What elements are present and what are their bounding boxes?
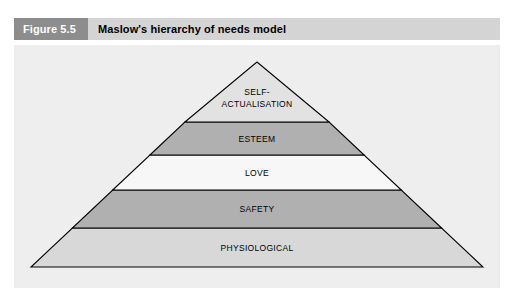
pyramid-label-esteem: ESTEEM (239, 134, 276, 144)
pyramid-label-safety: SAFETY (240, 204, 275, 214)
pyramid-label-self-actualisation-line2: ACTUALISATION (222, 99, 293, 109)
figure-number-badge: Figure 5.5 (14, 18, 88, 40)
pyramid-label-physiological: PHYSIOLOGICAL (221, 243, 294, 253)
pyramid-label-love: LOVE (245, 168, 269, 178)
pyramid-label-self-actualisation-line1: SELF- (244, 87, 270, 97)
figure-title: Maslow's hierarchy of needs model (88, 18, 500, 40)
figure-panel: SELF- ACTUALISATION ESTEEM LOVE SAFETY P… (14, 45, 500, 288)
maslow-pyramid-diagram: SELF- ACTUALISATION ESTEEM LOVE SAFETY P… (14, 45, 500, 288)
figure-header: Figure 5.5 Maslow's hierarchy of needs m… (14, 18, 500, 40)
